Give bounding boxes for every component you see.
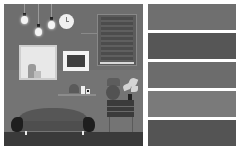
drawer-line	[107, 111, 134, 112]
lamp-cord	[51, 4, 52, 18]
color-swatch-2	[148, 33, 236, 59]
picture-frame	[63, 51, 89, 71]
blind-slats	[101, 17, 133, 61]
wall-ledge	[81, 33, 97, 34]
pendant-bulb-2-icon	[35, 28, 42, 36]
table-lamp-base	[106, 85, 120, 100]
wall-clock-icon	[59, 14, 74, 29]
bulb-cap	[50, 17, 53, 20]
pendant-bulb-3-icon	[48, 21, 55, 29]
decor-box	[81, 86, 85, 94]
wall-poster	[19, 45, 57, 80]
blind-bottom-bar	[100, 62, 134, 64]
color-palette	[148, 4, 236, 146]
table-leg	[132, 117, 133, 132]
sofa-leg	[82, 131, 84, 135]
color-swatch-1	[148, 4, 236, 30]
hat-decor-icon	[69, 84, 79, 93]
window-blind	[97, 14, 137, 66]
sofa-arm-left	[11, 117, 23, 132]
leaf	[131, 86, 138, 92]
sofa-arm-right	[83, 117, 95, 132]
lamp-cord	[38, 4, 39, 25]
clock-hand	[66, 21, 69, 22]
picture-frame-canvas	[67, 55, 85, 67]
sofa-seat	[18, 121, 88, 131]
table-leg	[109, 117, 110, 132]
color-swatch-4	[148, 91, 236, 117]
color-swatch-5	[148, 120, 236, 146]
room-illustration	[4, 4, 143, 146]
drawer-line	[107, 106, 134, 107]
bulb-cap	[37, 24, 40, 27]
decor-dot	[87, 90, 89, 92]
side-table	[107, 100, 134, 117]
wall-shelf	[58, 94, 96, 96]
sofa-leg	[25, 131, 27, 135]
color-swatch-3	[148, 62, 236, 88]
poster-figure	[34, 71, 41, 78]
pendant-bulb-1-icon	[21, 16, 28, 24]
